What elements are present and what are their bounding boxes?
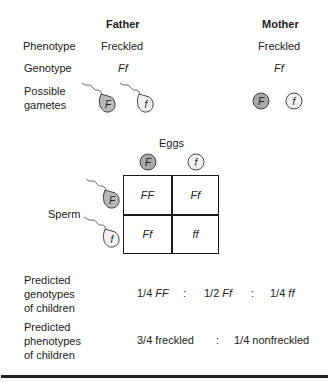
predicted-genotypes-label-line2: genotypes bbox=[24, 287, 75, 301]
svg-text:F: F bbox=[258, 96, 265, 107]
gametes-label-line1: Possible bbox=[24, 84, 66, 98]
cell-Ff-top: Ff bbox=[172, 176, 219, 214]
egg-dominant-icon: F bbox=[251, 91, 271, 111]
genotype-ratio-heterozygous: 1/2 Ff bbox=[204, 287, 232, 299]
mother-genotype: Ff bbox=[274, 62, 284, 74]
cell-ff: ff bbox=[172, 215, 219, 253]
phenotype-ratio-freckled: 3/4 freckled bbox=[137, 334, 194, 346]
father-phenotype: Freckled bbox=[101, 40, 143, 52]
svg-text:F: F bbox=[145, 157, 152, 168]
sperm-row-recessive-icon: f bbox=[84, 215, 124, 251]
bottom-divider bbox=[1, 375, 328, 378]
predicted-phenotypes-label-line3: of children bbox=[24, 348, 81, 362]
phenotype-ratio-nonfreckled: 1/4 nonfreckled bbox=[234, 334, 309, 346]
phenotype-label: Phenotype bbox=[23, 40, 76, 52]
cell-FF: FF bbox=[124, 176, 171, 214]
sperm-recessive-icon: f bbox=[118, 80, 158, 116]
eggs-label: Eggs bbox=[159, 137, 184, 149]
ratio-separator: : bbox=[251, 287, 254, 299]
predicted-genotypes-label-line3: of children bbox=[24, 301, 75, 315]
gametes-label: Possible gametes bbox=[24, 84, 66, 112]
punnett-square: FF Ff Ff ff bbox=[123, 175, 219, 254]
father-header: Father bbox=[106, 18, 140, 30]
egg-column-recessive-icon: f bbox=[186, 152, 206, 172]
egg-column-dominant-icon: F bbox=[138, 152, 158, 172]
svg-text:F: F bbox=[109, 195, 116, 206]
genotype: ff bbox=[288, 287, 294, 299]
sperm-dominant-icon: F bbox=[80, 80, 120, 116]
mother-header: Mother bbox=[262, 18, 299, 30]
genotype: Ff bbox=[222, 287, 232, 299]
predicted-genotypes-label: Predicted genotypes of children bbox=[24, 273, 75, 315]
ratio-separator: : bbox=[183, 287, 186, 299]
mother-phenotype: Freckled bbox=[258, 40, 300, 52]
genotype-label: Genotype bbox=[24, 62, 72, 74]
fraction: 1/4 bbox=[137, 287, 152, 299]
cell-Ff-bottom: Ff bbox=[124, 215, 171, 253]
egg-recessive-icon: f bbox=[284, 91, 304, 111]
gametes-label-line2: gametes bbox=[24, 98, 66, 112]
ratio-separator: : bbox=[216, 334, 219, 346]
genotype: FF bbox=[155, 287, 168, 299]
sperm-label: Sperm bbox=[48, 208, 80, 220]
father-genotype: Ff bbox=[118, 62, 128, 74]
predicted-genotypes-label-line1: Predicted bbox=[24, 273, 75, 287]
fraction: 1/2 bbox=[204, 287, 219, 299]
fraction: 1/4 bbox=[270, 287, 285, 299]
predicted-phenotypes-label: Predicted phenotypes of children bbox=[24, 320, 81, 362]
genotype-ratio-ff-dominant: 1/4 FF bbox=[137, 287, 169, 299]
genotype-ratio-recessive: 1/4 ff bbox=[270, 287, 294, 299]
sperm-row-dominant-icon: F bbox=[84, 176, 124, 212]
predicted-phenotypes-label-line2: phenotypes bbox=[24, 334, 81, 348]
svg-text:F: F bbox=[105, 99, 112, 110]
predicted-phenotypes-label-line1: Predicted bbox=[24, 320, 81, 334]
